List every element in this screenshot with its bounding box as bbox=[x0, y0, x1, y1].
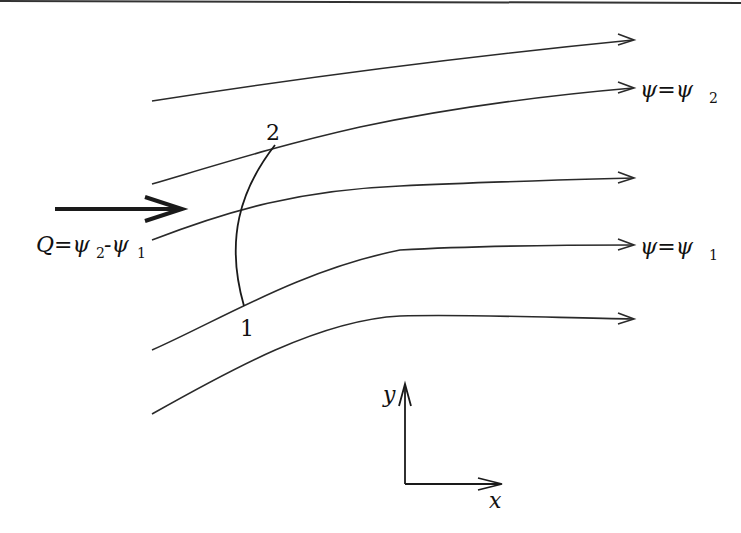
point-2-label: 2 bbox=[266, 120, 280, 145]
flow-rate-label: Q =ψ 2 -ψ 1 bbox=[36, 232, 146, 261]
streamline-2-label: ψ=ψ 2 bbox=[640, 77, 718, 106]
x-axis-label: x bbox=[489, 488, 502, 513]
point-1-label: 1 bbox=[240, 316, 254, 341]
svg-text:ψ=ψ: ψ=ψ bbox=[640, 77, 694, 102]
svg-text:Q: Q bbox=[36, 232, 54, 257]
svg-text:2: 2 bbox=[709, 90, 718, 106]
control-curve bbox=[236, 145, 275, 306]
streamline-4 bbox=[152, 239, 634, 350]
svg-text:=ψ: =ψ bbox=[54, 232, 90, 257]
streamline-3 bbox=[152, 172, 634, 240]
streamline-diagram: 2 1 ψ=ψ 2 ψ=ψ 1 Q =ψ 2 -ψ 1 y x bbox=[0, 0, 741, 533]
streamline-1 bbox=[152, 34, 634, 101]
coordinate-axes: y x bbox=[382, 382, 502, 513]
arrowhead-icon bbox=[618, 82, 634, 93]
streamline-4-label: ψ=ψ 1 bbox=[640, 234, 718, 263]
arrowhead-icon bbox=[618, 34, 634, 45]
top-border-line bbox=[0, 1, 741, 3]
svg-text:ψ=ψ: ψ=ψ bbox=[640, 234, 694, 259]
svg-text:1: 1 bbox=[137, 245, 146, 261]
svg-text:-ψ: -ψ bbox=[104, 232, 129, 257]
y-axis-label: y bbox=[382, 382, 396, 407]
svg-text:1: 1 bbox=[709, 247, 718, 263]
streamline-2 bbox=[152, 82, 634, 184]
flow-arrow bbox=[55, 197, 182, 221]
